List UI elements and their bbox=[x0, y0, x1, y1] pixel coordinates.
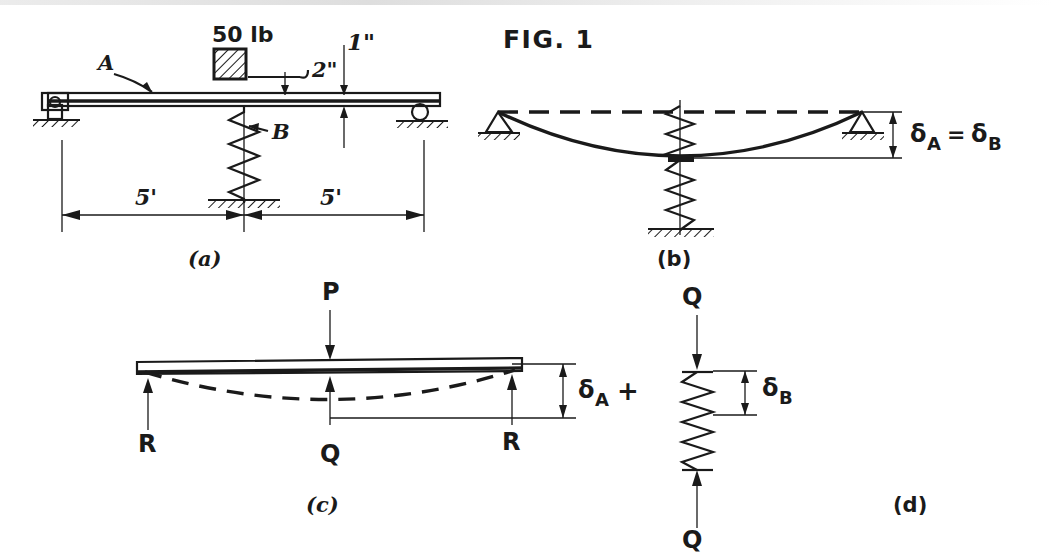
dim-label-right: 5' bbox=[320, 184, 342, 210]
dimension-line-right-5ft bbox=[244, 210, 424, 220]
load-p-arrow bbox=[325, 310, 335, 360]
delta-a-subscript: A bbox=[927, 133, 941, 154]
delta-equation-label-b: δ A = δ B bbox=[910, 120, 1002, 154]
delta-a-symbol: δ bbox=[910, 120, 927, 148]
delta-a-subscript-c: A bbox=[595, 389, 609, 410]
pin-support-right-b bbox=[842, 112, 884, 140]
dim-label-left: 5' bbox=[135, 184, 157, 210]
delta-b-dimension-d bbox=[741, 371, 749, 415]
weight-block-icon bbox=[214, 49, 246, 79]
panel-a: A B 50 lb 2" 1" bbox=[33, 22, 448, 271]
gap-dimension-2in bbox=[248, 70, 308, 95]
reaction-right-label: R bbox=[502, 428, 520, 456]
delta-b-label-d: δ B bbox=[762, 374, 793, 408]
reaction-left-label: R bbox=[138, 430, 156, 458]
pin-support-left-b bbox=[478, 112, 520, 140]
delta-dimension-b bbox=[889, 112, 897, 158]
panel-c: P R R bbox=[137, 278, 609, 517]
engineering-figure: A B 50 lb 2" 1" bbox=[0, 0, 1053, 553]
load-p-label: P bbox=[322, 278, 340, 306]
force-q-bottom-arrow bbox=[692, 470, 702, 528]
delta-b-subscript: B bbox=[988, 133, 1002, 154]
spring-b bbox=[229, 106, 259, 205]
delta-equals-sign: = bbox=[947, 122, 965, 147]
delta-b-subscript-d: B bbox=[779, 387, 793, 408]
beam-label-a: A bbox=[96, 50, 114, 75]
delta-a-label-c: δ A bbox=[578, 376, 609, 410]
pin-support-left bbox=[33, 93, 80, 127]
panel-d-caption: (d) bbox=[893, 493, 927, 517]
figure-title: FIG. 1 bbox=[503, 25, 595, 54]
force-q-top-label: Q bbox=[682, 283, 702, 311]
spring-ground-b bbox=[648, 229, 714, 237]
delta-b-symbol: δ bbox=[971, 120, 988, 148]
delta-a-symbol-c: δ bbox=[578, 376, 595, 404]
gap-label: 2" bbox=[311, 57, 338, 82]
load-label-50lb: 50 lb bbox=[212, 22, 274, 47]
spring-force-q-label: Q bbox=[320, 440, 340, 468]
beam-a bbox=[48, 93, 440, 106]
reaction-left-arrow bbox=[143, 378, 153, 430]
force-q-top-arrow bbox=[692, 315, 702, 370]
deflection-label: 1" bbox=[347, 28, 375, 55]
delta-a-dimension-c bbox=[559, 364, 567, 418]
spring-b-panel bbox=[666, 100, 694, 235]
spring-label-b: B bbox=[271, 119, 290, 144]
panel-a-caption: (a) bbox=[188, 246, 221, 271]
panel-d: Q Q bbox=[682, 283, 927, 553]
panel-b-caption: (b) bbox=[657, 247, 691, 271]
spring-d bbox=[682, 372, 713, 470]
beam-c bbox=[137, 358, 522, 374]
delta-b-symbol-d: δ bbox=[762, 374, 779, 402]
panel-c-caption: (c) bbox=[306, 492, 339, 517]
plus-sign: + bbox=[617, 376, 639, 406]
panel-b: δ A = δ B (b) bbox=[478, 100, 1002, 271]
figure-canvas: A B 50 lb 2" 1" bbox=[0, 0, 1053, 553]
dimension-line-left-5ft bbox=[62, 210, 244, 220]
roller-support-right bbox=[396, 104, 448, 128]
deflection-dimension-1in bbox=[340, 45, 348, 148]
force-q-bottom-label: Q bbox=[682, 526, 702, 553]
